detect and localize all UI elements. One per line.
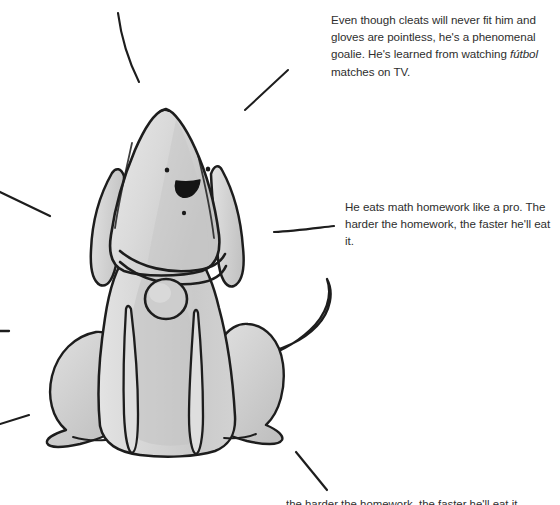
sparkle-right-middle-icon	[274, 226, 334, 232]
annotation-goalie-text-after: matches on TV.	[331, 65, 410, 78]
sparkle-upper-right-icon	[245, 70, 288, 110]
right-eye	[206, 167, 211, 172]
annotation-goalie: Even though cleats will never fit him an…	[331, 11, 555, 80]
sparkle-left-bottom-icon	[0, 415, 29, 424]
page-canvas: Even though cleats will never fit him an…	[0, 0, 560, 505]
collar-tag-highlight	[149, 283, 171, 303]
sparkle-top-left-curve-icon	[118, 13, 139, 82]
nose-dot	[182, 211, 186, 216]
left-eye	[165, 168, 170, 173]
sparkle-bottom-right-icon	[296, 452, 327, 490]
annotation-goalie-text-before: Even though cleats will never fit him an…	[331, 13, 536, 60]
sparkle-left-upper-icon	[0, 192, 50, 216]
bottom-cut-off-caption: the harder the homework, the faster he'l…	[286, 496, 560, 505]
annotation-homework: He eats math homework like a pro. The ha…	[345, 198, 560, 250]
annotation-goalie-italic-word: fútbol	[510, 47, 538, 60]
